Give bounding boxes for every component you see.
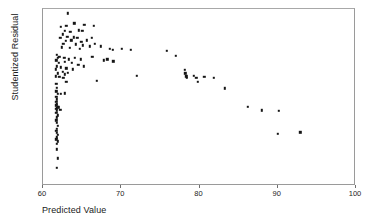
data-point bbox=[89, 45, 91, 47]
data-point bbox=[75, 43, 77, 45]
data-point bbox=[103, 59, 105, 61]
data-point bbox=[65, 80, 67, 82]
data-point bbox=[195, 77, 197, 79]
data-point bbox=[72, 68, 74, 70]
data-point bbox=[299, 131, 301, 133]
data-point bbox=[58, 56, 60, 58]
data-point bbox=[54, 75, 56, 77]
data-point bbox=[71, 62, 73, 64]
data-point bbox=[78, 29, 80, 31]
data-point bbox=[79, 58, 81, 60]
data-point bbox=[261, 109, 263, 111]
data-point bbox=[62, 77, 64, 79]
data-point bbox=[186, 77, 188, 79]
data-point bbox=[90, 37, 92, 39]
data-point bbox=[277, 110, 279, 112]
data-point bbox=[64, 61, 66, 63]
data-point bbox=[108, 47, 110, 49]
data-point bbox=[61, 46, 63, 48]
data-point bbox=[223, 87, 225, 89]
data-point bbox=[56, 142, 58, 144]
data-point bbox=[79, 47, 81, 49]
data-point bbox=[111, 49, 113, 51]
data-point bbox=[64, 73, 66, 75]
data-point bbox=[80, 40, 82, 42]
data-point bbox=[203, 76, 205, 78]
data-point bbox=[68, 58, 70, 60]
x-axis-tick-label: 90 bbox=[273, 190, 281, 198]
x-axis-tick-label: 60 bbox=[38, 190, 46, 198]
data-point bbox=[56, 166, 58, 168]
data-point bbox=[183, 69, 185, 71]
data-point bbox=[165, 50, 167, 52]
data-point bbox=[72, 36, 74, 38]
data-point bbox=[70, 39, 72, 41]
data-point bbox=[67, 12, 69, 14]
data-point bbox=[83, 24, 85, 26]
data-point bbox=[66, 35, 68, 37]
y-axis: 210-1-2-3 bbox=[0, 0, 42, 193]
data-point bbox=[81, 30, 83, 32]
x-axis-tick-label: 80 bbox=[194, 190, 202, 198]
x-axis-tick bbox=[120, 185, 121, 188]
data-point bbox=[65, 25, 67, 27]
data-point bbox=[60, 93, 62, 95]
data-point bbox=[175, 55, 177, 57]
data-point bbox=[93, 42, 95, 44]
data-point bbox=[57, 157, 59, 159]
data-point bbox=[197, 80, 199, 82]
data-point bbox=[136, 74, 138, 76]
data-point bbox=[247, 105, 249, 107]
data-point bbox=[76, 37, 78, 39]
data-point bbox=[60, 25, 62, 27]
data-point bbox=[64, 40, 66, 42]
data-points-layer bbox=[43, 9, 354, 184]
plot-area bbox=[42, 8, 355, 185]
data-point bbox=[93, 25, 95, 27]
data-point bbox=[82, 65, 84, 67]
data-point bbox=[57, 72, 59, 74]
x-axis-tick bbox=[355, 185, 356, 188]
data-point bbox=[100, 45, 102, 47]
data-point bbox=[65, 67, 67, 69]
data-point bbox=[55, 83, 57, 85]
data-point bbox=[112, 60, 114, 62]
x-axis-tick-label: 70 bbox=[116, 190, 124, 198]
data-point bbox=[69, 31, 71, 33]
x-axis-title: Predicted Value bbox=[42, 205, 106, 215]
x-axis-tick bbox=[277, 185, 278, 188]
data-point bbox=[277, 132, 279, 134]
y-axis-title: Studentized Residual bbox=[10, 0, 20, 121]
data-point bbox=[212, 76, 214, 78]
data-point bbox=[56, 86, 58, 88]
data-point bbox=[61, 33, 63, 35]
data-point bbox=[57, 62, 59, 64]
data-point bbox=[91, 56, 93, 58]
x-axis-tick-label: 100 bbox=[349, 190, 362, 198]
data-point bbox=[60, 66, 62, 68]
data-point bbox=[73, 22, 75, 24]
data-point bbox=[96, 79, 98, 81]
data-point bbox=[68, 47, 70, 49]
scatter-plot-figure: 210-1-2-3 Studentized Residual Predicted… bbox=[0, 0, 371, 223]
data-point bbox=[129, 49, 131, 51]
data-point bbox=[64, 92, 66, 94]
data-point bbox=[63, 57, 65, 59]
data-point bbox=[77, 64, 79, 66]
data-point bbox=[121, 47, 123, 49]
data-point bbox=[67, 72, 69, 74]
x-axis-tick bbox=[199, 185, 200, 188]
data-point bbox=[58, 76, 60, 78]
data-point bbox=[64, 30, 66, 32]
data-point bbox=[62, 42, 64, 44]
data-point bbox=[106, 58, 108, 60]
data-point bbox=[82, 44, 84, 46]
data-point bbox=[59, 108, 61, 110]
data-point bbox=[59, 37, 61, 39]
data-point bbox=[74, 57, 76, 59]
data-point bbox=[86, 39, 88, 41]
data-point bbox=[56, 148, 58, 150]
x-axis-tick bbox=[42, 185, 43, 188]
data-point bbox=[54, 68, 56, 70]
